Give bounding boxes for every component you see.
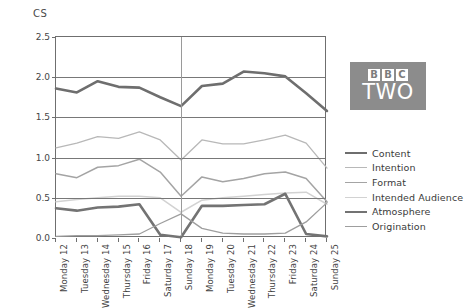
chart-container: CS 0.00.51.01.52.02.5 Monday 12Tuesday 1… [0,0,340,306]
legend-label: Atmosphere [372,206,431,217]
series-line-atmosphere [56,194,327,237]
x-tick-label: Monday 19 [205,244,215,292]
x-tick-mark [55,238,56,242]
x-tick-mark [201,238,202,242]
x-tick-label: Wednesday 21 [247,244,257,308]
x-tick-label: Thursday 15 [122,244,132,298]
x-tick-label: Wednesday 14 [101,244,111,308]
y-tick-label: 1.0 [36,153,56,163]
y-gridline [56,77,325,78]
x-tick-label: Saturday 17 [163,244,173,297]
logo-word: TWO [362,82,414,103]
x-tick-label: Tuesday 20 [226,244,236,293]
x-tick-mark [97,238,98,242]
plot-area: 0.00.51.01.52.02.5 [55,36,326,237]
legend-label: Intention [372,162,416,173]
y-gridline [56,117,325,118]
x-tick-label: Saturday 24 [309,244,319,297]
y-tick-label: 0.5 [36,193,56,203]
x-tick-mark [138,238,139,242]
x-axis-labels: Monday 12Tuesday 13Wednesday 14Thursday … [55,238,326,306]
x-tick-label: Sunday 18 [184,244,194,290]
y-tick-label: 1.5 [36,112,56,122]
x-tick-mark [305,238,306,242]
series-layer [56,37,327,238]
legend-swatch-icon [345,167,367,168]
legend-item-atmosphere[interactable]: Atmosphere [345,204,473,219]
legend-swatch-icon [345,226,367,227]
y-gridline [56,198,325,199]
legend-swatch-icon [345,211,367,213]
x-tick-label: Monday 12 [59,244,69,292]
x-tick-mark [76,238,77,242]
bbc-two-logo: B B C TWO [350,62,426,110]
y-gridline [56,158,325,159]
x-tick-label: Tuesday 13 [80,244,90,293]
legend-swatch-icon [345,197,367,198]
legend-label: Intended Audience [372,192,463,203]
legend-swatch-icon [345,182,367,183]
x-tick-label: Thursday 22 [267,244,277,298]
y-tick-label: 2.5 [36,32,56,42]
vertical-reference-line [181,37,182,236]
x-tick-label: Sunday 25 [330,244,340,290]
x-tick-mark [159,238,160,242]
y-tick-label: 0.0 [36,233,56,243]
x-tick-mark [326,238,327,242]
x-tick-mark [118,238,119,242]
x-tick-label: Friday 16 [142,244,152,284]
legend-label: Origination [372,221,426,232]
legend-label: Format [372,177,406,188]
x-tick-mark [180,238,181,242]
y-tick-label: 2.0 [36,72,56,82]
y-axis-title: CS [33,8,47,19]
series-line-intention [56,132,327,168]
x-tick-mark [284,238,285,242]
legend-item-format[interactable]: Format [345,175,473,190]
legend-swatch-icon [345,152,367,154]
x-tick-mark [263,238,264,242]
x-tick-mark [243,238,244,242]
legend-item-origination[interactable]: Origination [345,219,473,234]
x-tick-mark [222,238,223,242]
chart-legend: ContentIntentionFormatIntended AudienceA… [345,146,473,234]
legend-item-content[interactable]: Content [345,146,473,161]
legend-item-intended-audience[interactable]: Intended Audience [345,190,473,205]
legend-label: Content [372,148,410,159]
x-tick-label: Friday 23 [288,244,298,284]
legend-item-intention[interactable]: Intention [345,161,473,176]
